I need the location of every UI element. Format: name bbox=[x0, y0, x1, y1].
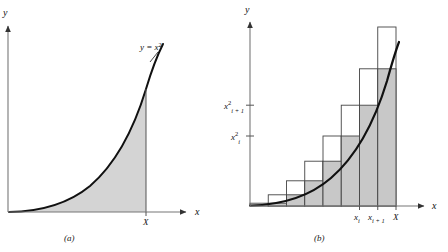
x-tick-xi1-sub: i + 1 bbox=[372, 217, 385, 224]
y-tick-lower-sub: i bbox=[238, 138, 240, 145]
panel-b-x-tick-label-xi: xi bbox=[353, 212, 360, 224]
panel-a: y x X y = x2 bbox=[2, 7, 200, 227]
panel-b-x-axis-label: x bbox=[431, 200, 437, 211]
panel-a-x-axis-label: x bbox=[194, 206, 200, 217]
panel-a-y-axis-label: y bbox=[2, 7, 8, 18]
inscribed-bar bbox=[360, 105, 378, 206]
x-tick-xi-sub: i bbox=[358, 217, 360, 224]
panel-b-caption: (b) bbox=[314, 233, 325, 243]
panel-b-x-tick-label-X: X bbox=[392, 212, 399, 222]
y-tick-upper-sup: 2 bbox=[228, 99, 231, 106]
panel-b-y-tick-label-upper: x2i + 1 bbox=[223, 99, 244, 114]
panel-b-y-tick-label-lower: x2i bbox=[230, 130, 240, 145]
panel-a-curve-label: y = x2 bbox=[139, 41, 162, 53]
y-tick-lower-sup: 2 bbox=[235, 130, 238, 137]
figure-canvas: y x X y = x2 bbox=[0, 0, 448, 252]
inscribed-bar-highlighted bbox=[378, 69, 396, 206]
panel-a-curve-label-exponent: 2 bbox=[159, 41, 162, 48]
panel-b: y x x2i + 1 x2i xi xi + 1 X bbox=[223, 4, 437, 224]
x-tick-X-base: X bbox=[392, 212, 399, 222]
panel-a-x-tick-label-X: X bbox=[142, 217, 149, 227]
y-tick-upper-sub: i + 1 bbox=[231, 107, 244, 114]
panel-a-caption: (a) bbox=[64, 233, 75, 243]
panel-b-x-tick-label-xi1: xi + 1 bbox=[367, 212, 385, 224]
panel-b-y-axis-label: y bbox=[244, 4, 250, 15]
panel-a-shaded-area bbox=[9, 89, 146, 212]
panel-a-curve-label-text: y = x bbox=[139, 42, 159, 52]
